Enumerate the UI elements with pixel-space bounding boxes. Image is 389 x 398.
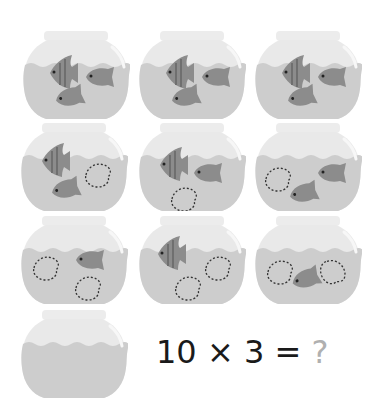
- fishbowl: [138, 123, 246, 211]
- fishbowl: [138, 216, 246, 304]
- fishbowl: [20, 123, 128, 211]
- equation-left: 10: [156, 333, 197, 371]
- equation: 10 × 3 = ?: [156, 334, 328, 370]
- fishbowl: [22, 31, 130, 119]
- fishbowl: [254, 216, 362, 304]
- fishbowl-empty: [20, 310, 128, 398]
- fishbowl: [20, 216, 128, 304]
- equation-equals: =: [274, 333, 301, 371]
- question-mark: ?: [311, 333, 328, 371]
- equation-right: 3: [244, 333, 264, 371]
- fishbowl: [138, 31, 246, 119]
- equation-operator: ×: [207, 333, 234, 371]
- fishbowl: [254, 31, 362, 119]
- fishbowl: [254, 123, 362, 211]
